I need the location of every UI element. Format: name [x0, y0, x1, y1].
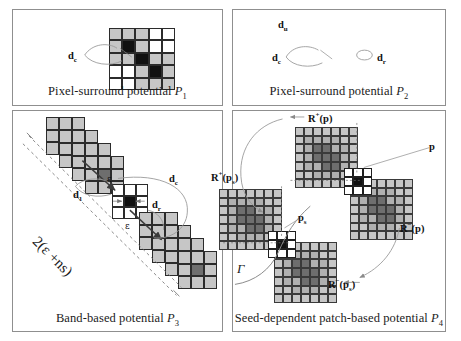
- grid-cell: [344, 177, 353, 186]
- grid-cell: [319, 268, 328, 277]
- grid-cell: [165, 251, 178, 264]
- grid-cell: [331, 144, 340, 153]
- dimension-tick-top: [27, 133, 33, 139]
- grid-cell: [301, 259, 310, 268]
- grid-cell: [228, 189, 237, 198]
- grid-cell: [204, 276, 217, 289]
- grid-cell: [46, 117, 59, 130]
- grid-cell: [139, 237, 152, 250]
- grid-cell: [349, 127, 358, 136]
- grid-cell: [124, 184, 136, 196]
- grid-cell: [191, 238, 204, 251]
- grid-cell: [165, 263, 178, 276]
- panel-band-based-p3: 2(ε +ns) d1 dc dr ε ε Band-based potenti…: [12, 110, 223, 332]
- grid-cell: [310, 268, 319, 277]
- grid-cell: [350, 231, 359, 240]
- d-c-label-p1: dc: [68, 50, 77, 64]
- grid-cell: [395, 196, 404, 205]
- grid-cell: [350, 214, 359, 223]
- grid-cell: [304, 144, 313, 153]
- grid-cell: [283, 294, 292, 303]
- grid-cell: [59, 155, 72, 168]
- center-block-ps: [268, 231, 296, 258]
- grid-cell: [304, 153, 313, 162]
- grid-cell: [322, 153, 331, 162]
- grid-cell: [219, 215, 228, 224]
- grid-cell: [319, 277, 328, 286]
- grid-cell: [85, 181, 98, 194]
- grid-cell: [122, 40, 135, 52]
- grid-cell: [359, 205, 368, 214]
- grid-cell: [313, 144, 322, 153]
- grid-cell: [273, 198, 282, 207]
- grid-cell: [46, 142, 59, 155]
- grid-cell: [255, 215, 264, 224]
- grid-cell: [359, 231, 368, 240]
- grid-cell: [386, 179, 395, 188]
- grid-cell: [310, 259, 319, 268]
- grid-cell: [377, 223, 386, 232]
- grid-cell: [331, 153, 340, 162]
- grid-cell: [112, 196, 124, 208]
- grid-cell: [111, 156, 124, 169]
- d-1-label-p3: d1: [73, 189, 82, 203]
- grid-cell: [112, 207, 124, 219]
- epsilon-upper-label: ε: [107, 174, 112, 184]
- grid-cell: [404, 179, 413, 188]
- grid-cell: [246, 215, 255, 224]
- grid-cell: [359, 214, 368, 223]
- grid-cell: [228, 224, 237, 233]
- grid-cell: [363, 177, 372, 186]
- grid-cell: [228, 206, 237, 215]
- grid-cell: [191, 251, 204, 264]
- grid-cell: [162, 40, 175, 52]
- grid-cell: [310, 294, 319, 303]
- grid-cell: [301, 268, 310, 277]
- grid-cell: [246, 233, 255, 242]
- grid-cell: [255, 206, 264, 215]
- grid-cell: [328, 268, 337, 277]
- grid-cell: [255, 198, 264, 207]
- d-r-label-p2: dr: [377, 52, 386, 66]
- grid-cell: [273, 206, 282, 215]
- grid-cell: [319, 251, 328, 260]
- grid-cell: [350, 205, 359, 214]
- grid-cell: [295, 127, 304, 136]
- grid-cell: [98, 143, 111, 156]
- grid-cell: [292, 259, 301, 268]
- grid-cell: [377, 214, 386, 223]
- grid-cell: [322, 171, 331, 180]
- grid-cell: [322, 162, 331, 171]
- caption-p1: Pixel-surround potential P1: [13, 84, 222, 101]
- grid-cell: [228, 233, 237, 242]
- grid-cell: [386, 205, 395, 214]
- grid-cell: [255, 233, 264, 242]
- caption-p2: Pixel-surround potential P2: [233, 84, 445, 101]
- grid-cell: [122, 65, 135, 77]
- grid-cell: [165, 238, 178, 251]
- grid-cell: [264, 198, 273, 207]
- grid-cell: [149, 65, 162, 77]
- grid-cell: [246, 241, 255, 250]
- grid-cell: [310, 251, 319, 260]
- grid-cell: [219, 233, 228, 242]
- grid-cell: [349, 136, 358, 145]
- grid-cell: [219, 224, 228, 233]
- grid-cell: [246, 198, 255, 207]
- grid-cell: [165, 212, 178, 225]
- grid-cell: [301, 294, 310, 303]
- grid-cell: [368, 231, 377, 240]
- grid-cell: [328, 294, 337, 303]
- grid-cell: [72, 156, 85, 169]
- grid-cell: [255, 224, 264, 233]
- r-plus-ps-label: R+(ps): [211, 170, 238, 186]
- grid-cell: [122, 28, 135, 40]
- grid-cell: [136, 184, 148, 196]
- grid-cell: [313, 136, 322, 145]
- grid-cell: [122, 53, 135, 65]
- grid-cell: [353, 168, 362, 177]
- grid-cell: [136, 196, 148, 208]
- grid-cell: [219, 241, 228, 250]
- dimension-tick-bottom: [173, 290, 179, 296]
- grid-cell: [178, 276, 191, 289]
